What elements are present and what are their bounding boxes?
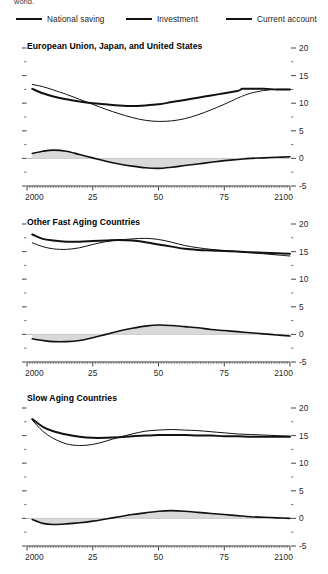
legend-swatch-current-account bbox=[226, 18, 252, 20]
chart-legend: National saving Investment Current accou… bbox=[0, 12, 328, 26]
x-axis-tick-label: 2100 bbox=[274, 552, 293, 562]
x-axis-tick-label: 2000 bbox=[25, 552, 44, 562]
y-axis-tick-label: 0 bbox=[299, 513, 304, 523]
x-axis-tick-label: 2100 bbox=[274, 192, 293, 202]
legend-label-national-saving: National saving bbox=[47, 15, 104, 24]
y-axis-tick-label: 0 bbox=[299, 329, 304, 339]
x-axis-tick-label: 75 bbox=[220, 192, 229, 202]
y-axis-tick-label: -5 bbox=[299, 181, 306, 191]
y-axis-tick-label: -5 bbox=[299, 541, 306, 551]
legend-swatch-national-saving bbox=[16, 18, 42, 19]
right-axis-ticks bbox=[291, 224, 296, 362]
y-axis-tick-label: 0 bbox=[299, 153, 304, 163]
legend-label-investment: Investment bbox=[157, 15, 198, 24]
x-axis-tick-label: 50 bbox=[154, 368, 163, 378]
y-axis-tick-label: -5 bbox=[299, 357, 306, 367]
y-axis-tick-label: 15 bbox=[299, 247, 308, 257]
y-axis-tick-label: 20 bbox=[299, 219, 308, 229]
chart-panel-other-fast-aging-countries: Other Fast Aging Countries -505101520200… bbox=[0, 214, 328, 386]
right-axis-ticks bbox=[291, 48, 296, 186]
plot-canvas bbox=[0, 38, 328, 210]
x-axis-tick-label: 25 bbox=[88, 368, 97, 378]
x-axis-tick-label: 2000 bbox=[25, 368, 44, 378]
y-axis-tick-label: 5 bbox=[299, 302, 304, 312]
legend-item-current-account: Current account bbox=[226, 12, 317, 26]
plot-canvas bbox=[0, 390, 328, 574]
y-axis-tick-label: 20 bbox=[299, 403, 308, 413]
x-axis bbox=[27, 186, 290, 191]
series-line-national-saving bbox=[32, 420, 290, 445]
right-axis-ticks bbox=[291, 408, 296, 546]
series-line-investment bbox=[32, 234, 290, 253]
left-axis-ticks bbox=[22, 224, 27, 362]
legend-item-national-saving: National saving bbox=[16, 12, 104, 26]
x-axis-tick-label: 50 bbox=[154, 552, 163, 562]
x-axis-tick-label: 75 bbox=[220, 368, 229, 378]
clipped-body-text: world. bbox=[14, 0, 34, 6]
x-axis-tick-label: 2000 bbox=[25, 192, 44, 202]
left-axis-ticks bbox=[22, 408, 27, 546]
y-axis-tick-label: 15 bbox=[299, 431, 308, 441]
series-line-investment bbox=[32, 419, 290, 438]
x-axis-tick-label: 25 bbox=[88, 552, 97, 562]
y-axis-tick-label: 15 bbox=[299, 71, 308, 81]
plot-canvas bbox=[0, 214, 328, 386]
left-axis-ticks bbox=[22, 48, 27, 186]
x-axis-tick-label: 75 bbox=[220, 552, 229, 562]
legend-swatch-investment bbox=[126, 18, 152, 20]
chart-panel-european-union-japan-united-states: European Union, Japan, and United States… bbox=[0, 38, 328, 210]
x-axis bbox=[27, 546, 290, 551]
series-line-investment bbox=[32, 89, 290, 106]
x-axis-tick-label: 2100 bbox=[274, 368, 293, 378]
x-axis bbox=[27, 362, 290, 367]
legend-label-current-account: Current account bbox=[257, 15, 317, 24]
y-axis-tick-label: 10 bbox=[299, 458, 308, 468]
y-axis-tick-label: 5 bbox=[299, 126, 304, 136]
legend-item-investment: Investment bbox=[126, 12, 198, 26]
x-axis-tick-label: 50 bbox=[154, 192, 163, 202]
y-axis-tick-label: 10 bbox=[299, 274, 308, 284]
chart-panel-slow-aging-countries: Slow Aging Countries -505101520200025507… bbox=[0, 390, 328, 574]
y-axis-tick-label: 10 bbox=[299, 98, 308, 108]
y-axis-tick-label: 20 bbox=[299, 43, 308, 53]
x-axis-tick-label: 25 bbox=[88, 192, 97, 202]
y-axis-tick-label: 5 bbox=[299, 486, 304, 496]
